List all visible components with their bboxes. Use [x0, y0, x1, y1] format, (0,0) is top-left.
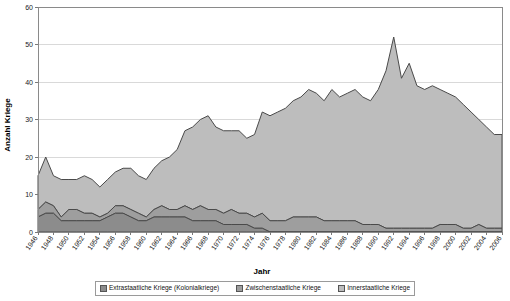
- x-tick-label: 1970: [210, 234, 225, 251]
- x-tick-label: 1952: [71, 234, 86, 251]
- legend-item-label: Extrastaatliche Kriege (Kolonialkriege): [109, 285, 219, 292]
- x-tick-label: 1960: [132, 234, 147, 251]
- x-tick-label: 1976: [256, 234, 271, 251]
- x-tick-label: 1956: [101, 234, 116, 251]
- x-tick-label: 2000: [442, 234, 457, 251]
- x-tick-label: 1946: [24, 234, 39, 251]
- legend-item-extrastaatliche: Extrastaatliche Kriege (Kolonialkriege): [100, 285, 219, 292]
- area-series-2: [38, 37, 502, 228]
- legend-swatch-icon: [236, 285, 243, 292]
- x-tick-label: 2006: [488, 234, 503, 251]
- y-tick-label: 10: [25, 191, 33, 198]
- legend-item-label: Zwischenstaatliche Kriege: [245, 285, 321, 292]
- x-axis-title: Jahr: [254, 267, 271, 276]
- x-tick-label: 1948: [40, 234, 55, 251]
- x-tick-label: 1968: [194, 234, 209, 251]
- y-tick-label: 60: [25, 4, 33, 11]
- legend-item-label: Innerstaatliche Kriege: [347, 285, 410, 292]
- y-tick-label: 40: [25, 79, 33, 86]
- x-tick-label: 1964: [163, 234, 178, 251]
- x-tick-label: 1986: [333, 234, 348, 251]
- x-tick-label: 1980: [287, 234, 302, 251]
- y-axis-ticks: 0102030405060: [25, 4, 38, 236]
- legend-item-zwischenstaatliche: Zwischenstaatliche Kriege: [236, 285, 321, 292]
- x-tick-label: 1978: [272, 234, 287, 251]
- x-tick-label: 1982: [303, 234, 318, 251]
- chart-legend: Extrastaatliche Kriege (Kolonialkriege) …: [95, 281, 415, 296]
- y-tick-label: 20: [25, 154, 33, 161]
- x-tick-label: 1994: [395, 234, 410, 251]
- x-axis-ticks: 1946194819501952195419561958196019621964…: [24, 232, 503, 251]
- x-tick-label: 1966: [179, 234, 194, 251]
- legend-swatch-icon: [338, 285, 345, 292]
- y-tick-label: 50: [25, 41, 33, 48]
- x-tick-label: 1972: [225, 234, 240, 251]
- area-series-group: [38, 37, 502, 232]
- x-tick-label: 1962: [148, 234, 163, 251]
- x-tick-label: 1992: [380, 234, 395, 251]
- y-axis-title: Anzahl Kriege: [3, 98, 12, 152]
- x-tick-label: 1996: [411, 234, 426, 251]
- y-tick-label: 30: [25, 116, 33, 123]
- x-tick-label: 1990: [364, 234, 379, 251]
- stacked-area-chart: 0102030405060 19461948195019521954195619…: [0, 0, 510, 301]
- x-tick-label: 2002: [457, 234, 472, 251]
- x-tick-label: 1958: [117, 234, 132, 251]
- x-tick-label: 1984: [318, 234, 333, 251]
- x-tick-label: 1998: [426, 234, 441, 251]
- x-tick-label: 1974: [241, 234, 256, 251]
- x-tick-label: 1950: [55, 234, 70, 251]
- x-tick-label: 2004: [473, 234, 488, 251]
- chart-plot-svg: 0102030405060 19461948195019521954195619…: [0, 0, 510, 301]
- x-tick-label: 1954: [86, 234, 101, 251]
- x-tick-label: 1988: [349, 234, 364, 251]
- legend-item-innerstaatliche: Innerstaatliche Kriege: [338, 285, 410, 292]
- legend-swatch-icon: [100, 285, 107, 292]
